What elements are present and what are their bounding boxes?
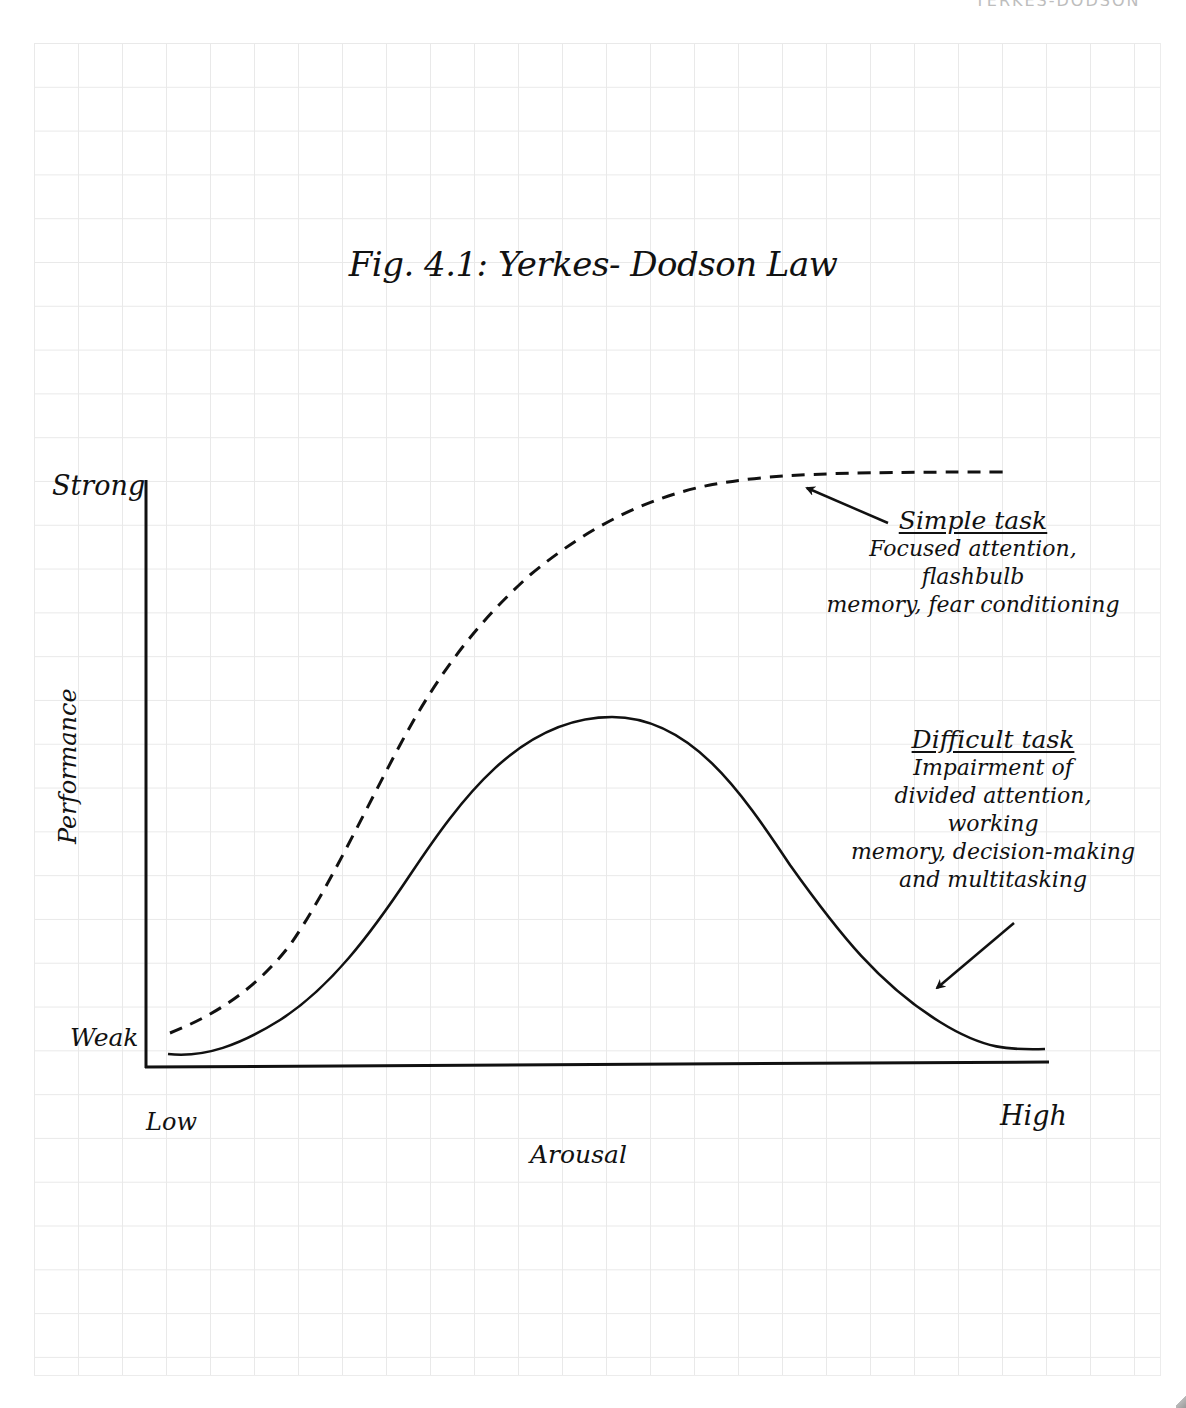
x-label-high: High	[1000, 1100, 1067, 1131]
simple-task-line: Focused attention, flashbulb	[818, 535, 1128, 591]
simple-task-heading: Simple task	[818, 506, 1128, 535]
y-label-strong: Strong	[52, 470, 145, 501]
y-label-weak: Weak	[70, 1023, 139, 1052]
difficult-task-line: memory, decision-making	[848, 838, 1138, 866]
difficult-task-heading: Difficult task	[848, 725, 1138, 754]
y-axis-title: Performance	[54, 704, 82, 844]
simple-task-annotation: Simple task Focused attention, flashbulb…	[818, 506, 1128, 619]
difficult-task-annotation: Difficult task Impairment of divided att…	[848, 725, 1138, 894]
x-label-low: Low	[146, 1108, 197, 1136]
difficult-task-arrow	[937, 923, 1014, 988]
difficult-task-line: Impairment of	[848, 754, 1138, 782]
x-axis-title: Arousal	[530, 1140, 627, 1169]
x-axis	[145, 1062, 1049, 1067]
chart-title: Fig. 4.1: Yerkes- Dodson Law	[0, 244, 1186, 284]
chart-canvas	[0, 0, 1186, 1408]
difficult-task-line: divided attention, working	[848, 782, 1138, 838]
simple-task-line: memory, fear conditioning	[818, 591, 1128, 619]
difficult-task-line: and multitasking	[848, 866, 1138, 894]
